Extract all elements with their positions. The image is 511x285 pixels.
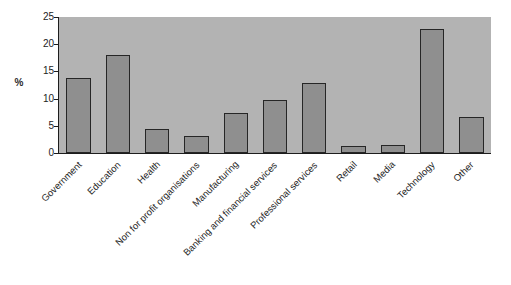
x-tick-label: Professional services	[248, 159, 319, 230]
bar	[381, 145, 405, 153]
y-tick-mark	[54, 99, 58, 100]
bar	[341, 146, 365, 153]
bar	[66, 78, 90, 153]
y-tick-label: 25	[30, 11, 54, 22]
bar	[184, 136, 208, 153]
x-tick-label: Non for profit organisations	[113, 159, 201, 247]
bar	[263, 100, 287, 153]
bar	[459, 117, 483, 153]
x-tick-label: Retail	[334, 159, 359, 184]
bar	[145, 129, 169, 153]
y-axis-tick-labels: 0510152025	[30, 17, 54, 153]
bar	[224, 113, 248, 153]
y-tick-label: 20	[30, 38, 54, 49]
y-tick-mark	[54, 44, 58, 45]
y-tick-mark	[54, 71, 58, 72]
x-tick-label: Other	[451, 159, 476, 184]
y-tick-label: 0	[30, 147, 54, 158]
bar	[302, 83, 326, 153]
bar	[420, 29, 444, 153]
y-tick-mark	[54, 126, 58, 127]
x-tick-label: Technology	[395, 159, 437, 201]
y-tick-label: 10	[30, 93, 54, 104]
y-tick-mark	[54, 17, 58, 18]
y-tick-label: 5	[30, 120, 54, 131]
x-tick-label: Government	[39, 159, 84, 204]
plot-area	[58, 17, 491, 154]
x-tick-label: Media	[371, 159, 397, 185]
bars-layer	[59, 17, 491, 153]
bar	[106, 55, 130, 153]
x-tick-label: Education	[85, 159, 123, 197]
x-tick-label: Health	[135, 159, 162, 186]
y-tick-mark	[54, 153, 58, 154]
y-tick-label: 15	[30, 65, 54, 76]
y-axis-title: %	[8, 77, 30, 88]
bar-chart: % 0510152025 GovernmentEducationHealthNo…	[0, 0, 511, 285]
